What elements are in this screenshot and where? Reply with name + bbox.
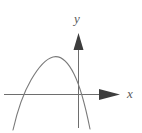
y-axis-arrowhead-icon [74, 33, 84, 50]
figure-canvas [0, 0, 142, 133]
parabola-figure: y x [0, 0, 142, 133]
x-axis-arrowhead-icon [99, 89, 120, 100]
x-axis-label: x [127, 87, 133, 100]
y-axis-label: y [74, 12, 80, 25]
